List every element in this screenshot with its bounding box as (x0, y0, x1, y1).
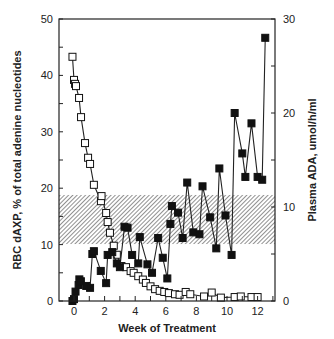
series-line (72, 38, 265, 301)
y-tick-label: 0 (47, 295, 53, 307)
series-layer (69, 34, 269, 304)
filled-square-marker (228, 251, 235, 258)
open-square-marker (72, 83, 79, 90)
filled-square-marker (248, 120, 255, 127)
hatched-normal-range (59, 195, 275, 244)
filled-square-marker (124, 224, 131, 231)
filled-square-marker (242, 173, 249, 180)
x-axis-title: Week of Treatment (118, 322, 216, 334)
open-square-marker (87, 160, 94, 167)
open-square-marker (90, 181, 97, 188)
filled-square-marker (262, 34, 269, 41)
open-square-marker (217, 294, 224, 301)
filled-square-marker (199, 183, 206, 190)
open-square-marker (103, 210, 110, 217)
filled-square-marker (168, 203, 175, 210)
filled-square-marker (109, 249, 116, 256)
filled-square-marker (167, 220, 174, 227)
y-axis-title: RBC dAXP, % of total adenine nucleotides (11, 50, 23, 269)
open-square-marker (106, 229, 113, 236)
filled-square-marker (222, 212, 229, 219)
open-square-marker (237, 293, 244, 300)
reference-band (59, 195, 275, 244)
y-tick-label: 50 (41, 13, 53, 25)
y-tick-label: 30 (41, 126, 53, 138)
x-tick-label: 8 (193, 305, 199, 317)
open-square-marker (208, 289, 215, 296)
filled-square-marker (179, 235, 186, 242)
x-tick-label: 12 (251, 305, 263, 317)
filled-square-marker (259, 176, 266, 183)
filled-square-marker (207, 214, 214, 221)
y-tick-label: 10 (41, 239, 53, 251)
open-square-marker (76, 94, 83, 101)
x-tick-label: 6 (163, 305, 169, 317)
y-tick-label: 20 (41, 182, 53, 194)
filled-square-marker (90, 248, 97, 255)
filled-square-marker (196, 231, 203, 238)
filled-square-marker (103, 280, 110, 287)
x-tick-label: 0 (71, 305, 77, 317)
filled-square-marker (149, 269, 156, 276)
x-tick-label: 10 (221, 305, 233, 317)
open-square-marker (201, 293, 208, 300)
filled-square-marker (129, 251, 136, 258)
y2-axis-title: Plasma ADA, umol/h/ml (306, 98, 318, 221)
series-plasma-ada (69, 34, 269, 304)
y2-tick-label: 30 (283, 13, 295, 25)
filled-square-marker (136, 234, 143, 241)
filled-square-marker (184, 179, 191, 186)
open-square-marker (78, 114, 85, 121)
y2-tick-label: 20 (283, 107, 295, 119)
filled-square-marker (216, 165, 223, 172)
filled-square-marker (239, 150, 246, 157)
filled-square-marker (144, 261, 151, 268)
filled-square-marker (116, 264, 123, 271)
open-square-marker (98, 193, 105, 200)
chart-canvas: 010203040500102030024681012 Week of Trea… (0, 0, 334, 339)
filled-square-marker (213, 245, 220, 252)
filled-square-marker (87, 284, 94, 291)
y-tick-label: 40 (41, 69, 53, 81)
filled-square-marker (175, 209, 182, 216)
open-square-marker (104, 219, 111, 226)
filled-square-marker (231, 110, 238, 117)
filled-square-marker (155, 235, 162, 242)
open-square-marker (187, 291, 194, 298)
chart: 010203040500102030024681012 Week of Trea… (0, 0, 334, 339)
filled-square-marker (164, 275, 171, 282)
filled-square-marker (135, 260, 142, 267)
y2-tick-label: 0 (283, 295, 289, 307)
y2-tick-label: 10 (283, 201, 295, 213)
filled-square-marker (72, 288, 79, 295)
x-tick-label: 4 (132, 305, 138, 317)
open-square-marker (69, 53, 76, 60)
filled-square-marker (97, 267, 104, 274)
x-tick-label: 2 (102, 305, 108, 317)
open-square-marker (82, 140, 89, 147)
filled-square-marker (159, 254, 166, 261)
